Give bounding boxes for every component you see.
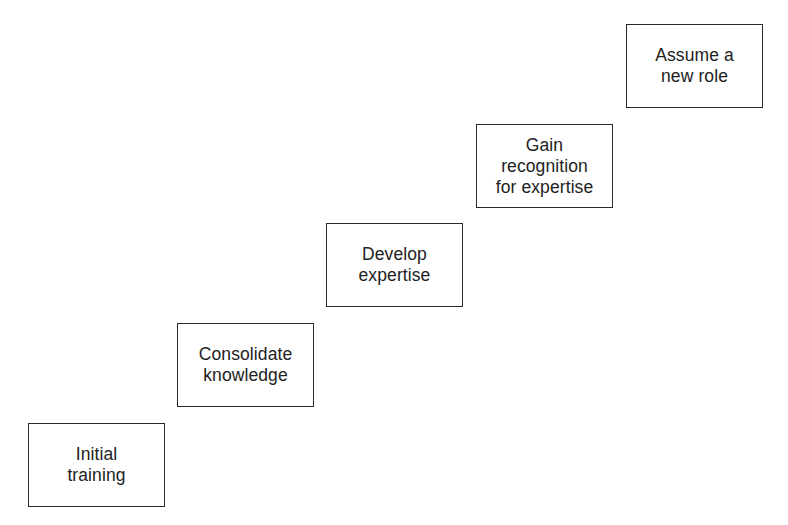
step-develop-expertise: Develop expertise [326,223,463,307]
step-label: Consolidate knowledge [199,344,293,386]
step-label: Develop expertise [359,244,431,286]
step-consolidate-knowledge: Consolidate knowledge [177,323,314,407]
step-label: Assume a new role [655,45,734,87]
step-gain-recognition: Gain recognition for expertise [476,124,613,208]
step-label: Gain recognition for expertise [496,135,594,198]
staircase-diagram: Initial training Consolidate knowledge D… [0,0,788,525]
step-label: Initial training [67,444,125,486]
step-assume-new-role: Assume a new role [626,24,763,108]
step-initial-training: Initial training [28,423,165,507]
